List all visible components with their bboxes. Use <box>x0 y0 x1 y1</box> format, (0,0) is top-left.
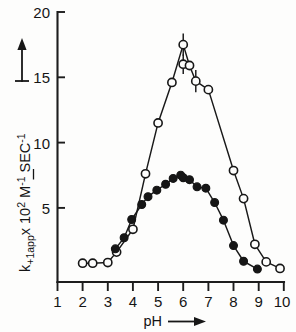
data-point <box>193 183 201 191</box>
y-title-times: x 10 <box>17 208 33 235</box>
y-title-unit-m-exp: -1 <box>15 176 27 185</box>
data-point <box>254 265 262 273</box>
x-tick-label-2: 2 <box>78 293 86 310</box>
data-point <box>111 245 119 253</box>
y-title-unit-sec-exp: -1 <box>15 133 27 142</box>
y-axis-ticks <box>58 12 66 208</box>
data-point <box>204 86 212 94</box>
y-tick-label-10: 10 <box>33 135 50 152</box>
y-title-unit-sec: SEC <box>17 143 33 173</box>
data-point <box>262 258 270 266</box>
data-series-layer <box>79 34 285 273</box>
x-tick-label-5: 5 <box>154 293 162 310</box>
y-axis-arrow-icon <box>15 38 29 82</box>
data-point <box>229 166 237 174</box>
data-point <box>169 174 177 182</box>
x-tick-label-9: 9 <box>255 293 263 310</box>
curve-open-circles <box>83 45 280 269</box>
data-point <box>211 199 219 207</box>
x-tick-label-7: 7 <box>204 293 212 310</box>
x-axis-ticks <box>58 282 284 291</box>
x-axis-arrow-icon <box>168 317 206 326</box>
series-open-circles <box>79 34 285 273</box>
x-tick-label-6: 6 <box>179 293 187 310</box>
y-axis-title: k+1appx 102 M-1 SEC-1 <box>15 133 36 272</box>
data-point <box>154 119 162 127</box>
data-point <box>185 61 193 69</box>
ph-rate-plot: k+1appx 102 M-1 SEC-1 20 15 10 5 <box>0 0 296 332</box>
svg-text:k+1appx 102 M-1 SEC-1: k+1appx 102 M-1 SEC-1 <box>15 133 36 272</box>
x-tick-label-1: 1 <box>53 293 61 310</box>
data-point <box>239 195 247 203</box>
x-axis-title: pH <box>143 313 206 329</box>
y-title-unit-m: M <box>17 186 33 198</box>
x-tick-label-10: 10 <box>274 293 291 310</box>
data-point <box>192 77 200 85</box>
data-point <box>138 201 146 209</box>
data-point <box>179 41 187 49</box>
x-title-label: pH <box>143 313 162 329</box>
data-point <box>129 225 137 233</box>
data-point <box>120 234 128 242</box>
data-point <box>220 216 228 224</box>
y-tick-label-5: 5 <box>42 200 50 217</box>
x-tick-label-8: 8 <box>229 293 237 310</box>
data-point <box>230 242 238 250</box>
data-point <box>104 258 112 266</box>
data-point <box>276 264 284 272</box>
x-tick-label-3: 3 <box>104 293 112 310</box>
y-tick-label-20: 20 <box>33 4 50 21</box>
data-point <box>153 186 161 194</box>
data-point <box>89 259 97 267</box>
x-tick-label-4: 4 <box>129 293 137 310</box>
data-point <box>251 240 259 248</box>
y-title-sub: +1app <box>24 235 36 265</box>
data-point <box>79 259 87 267</box>
data-point <box>128 216 136 224</box>
data-point <box>202 184 210 192</box>
y-tick-label-15: 15 <box>33 69 50 86</box>
data-point <box>168 78 176 86</box>
data-point <box>240 257 248 265</box>
data-point <box>186 176 194 184</box>
data-point <box>162 180 170 188</box>
data-point <box>141 170 149 178</box>
data-point <box>144 193 152 201</box>
curve-filled-circles <box>115 175 257 269</box>
figure-container: k+1appx 102 M-1 SEC-1 20 15 10 5 <box>0 0 296 332</box>
